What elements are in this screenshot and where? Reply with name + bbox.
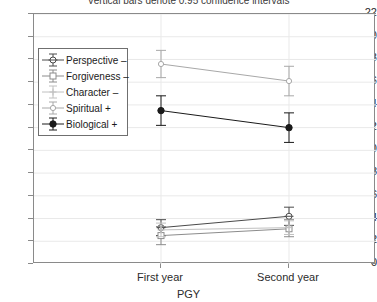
legend-label: Spiritual + (64, 103, 111, 114)
chart-figure: Vertical bars denote 0.95 confidence int… (0, 0, 377, 302)
legend-item-character[interactable]: Character – (42, 84, 123, 100)
legend-marker-icon (42, 69, 64, 83)
series-line (161, 64, 289, 81)
legend-item-perspective[interactable]: Perspective – (42, 52, 123, 68)
data-point-marker (50, 121, 56, 127)
legend-marker-icon (42, 101, 64, 115)
legend-marker-icon (42, 85, 64, 99)
data-point-marker (50, 73, 56, 79)
data-point-marker (158, 107, 164, 113)
legend-label: Character – (64, 87, 118, 98)
chart-legend: Perspective –Forgiveness –Character –Spi… (38, 48, 128, 136)
legend-marker-icon (42, 117, 64, 131)
x-tick-label: First year (137, 271, 183, 283)
data-point-marker (158, 61, 163, 66)
legend-item-forgiveness[interactable]: Forgiveness – (42, 68, 123, 84)
legend-item-biological[interactable]: Biological + (42, 116, 123, 132)
data-point-marker (286, 124, 292, 130)
chart-title: Vertical bars denote 0.95 confidence int… (0, 0, 377, 6)
legend-item-spiritual[interactable]: Spiritual + (42, 100, 123, 116)
series-biological (156, 96, 294, 143)
legend-marker-icon (42, 53, 64, 67)
legend-label: Perspective – (64, 55, 127, 66)
data-point-marker (286, 78, 291, 83)
series-line (161, 111, 289, 128)
series-perspective (156, 207, 294, 235)
series-line (161, 216, 289, 227)
legend-label: Forgiveness – (64, 71, 129, 82)
x-tick-label: Second year (257, 271, 319, 283)
legend-label: Biological + (64, 119, 117, 130)
data-point-marker (50, 105, 55, 110)
x-axis-title: PGY (0, 288, 377, 300)
series-spiritual (156, 50, 294, 95)
y-tick-mark (28, 263, 33, 264)
